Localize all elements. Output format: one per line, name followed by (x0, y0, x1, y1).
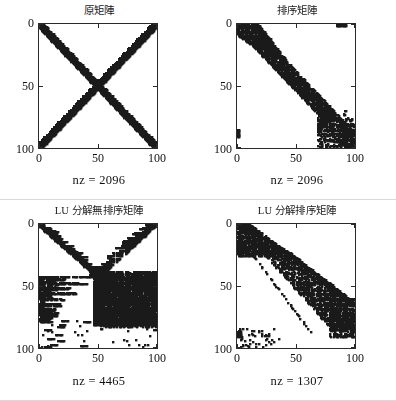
x-axis-tick-labels: 0 50 100 (198, 151, 396, 167)
x-tick-mark (296, 144, 297, 148)
x-tick-mark (296, 24, 297, 28)
y-tick-mark (39, 86, 43, 87)
y-axis-tick-labels: 0 50 100 (198, 223, 232, 349)
y-tick-mark (237, 286, 241, 287)
y-tick-mark (351, 347, 355, 348)
y-tick-mark (351, 24, 355, 25)
y-tick-label: 0 (198, 217, 232, 229)
y-tick-mark (351, 224, 355, 225)
y-tick-mark (237, 86, 241, 87)
y-tick-label: 0 (198, 17, 232, 29)
y-tick-label: 0 (0, 217, 34, 229)
x-tick-mark (296, 344, 297, 348)
x-tick-label: 50 (290, 151, 302, 165)
x-tick-mark (98, 144, 99, 148)
nz-annotation: nz = 2096 (198, 172, 396, 188)
x-tick-label: 100 (148, 151, 166, 165)
y-tick-mark (153, 347, 157, 348)
y-tick-label: 0 (0, 17, 34, 29)
y-tick-mark (39, 147, 43, 148)
x-tick-label: 0 (36, 151, 42, 165)
x-tick-label: 50 (92, 151, 104, 165)
y-tick-mark (237, 147, 241, 148)
subplot-permuted-matrix: 排序矩陣 0 50 100 0 50 100 nz = 2096 (198, 0, 396, 200)
scan-artifact-line (0, 199, 396, 200)
x-tick-label: 100 (346, 351, 364, 365)
x-tick-label: 0 (36, 351, 42, 365)
x-axis-tick-labels: 0 50 100 (0, 351, 198, 367)
nz-annotation: nz = 1307 (198, 373, 396, 389)
y-tick-mark (237, 347, 241, 348)
x-tick-label: 50 (290, 351, 302, 365)
x-tick-mark (98, 224, 99, 228)
x-axis-tick-labels: 0 50 100 (198, 351, 396, 367)
x-tick-label: 100 (346, 151, 364, 165)
figure-canvas: 原矩陣 0 50 100 0 50 100 nz = 2096 排序矩陣 0 5… (0, 0, 396, 401)
y-tick-mark (153, 224, 157, 225)
y-tick-mark (153, 24, 157, 25)
x-tick-label: 0 (234, 351, 240, 365)
x-axis-tick-labels: 0 50 100 (0, 151, 198, 167)
sparsity-canvas (237, 224, 355, 348)
x-tick-mark (98, 344, 99, 348)
x-tick-label: 100 (148, 351, 166, 365)
x-tick-mark (98, 24, 99, 28)
subplot-lu-permuted: LU 分解排序矩陣 0 50 100 0 50 100 nz = 1307 (198, 200, 396, 401)
plot-axes (236, 223, 356, 349)
y-tick-mark (237, 224, 241, 225)
y-axis-tick-labels: 0 50 100 (0, 223, 34, 349)
subplot-lu-unpermuted: LU 分解無排序矩陣 0 50 100 0 50 100 nz = 4465 (0, 200, 198, 401)
y-tick-mark (351, 286, 355, 287)
y-tick-mark (237, 24, 241, 25)
x-tick-label: 50 (92, 351, 104, 365)
nz-annotation: nz = 4465 (0, 373, 198, 389)
y-tick-mark (39, 24, 43, 25)
y-axis-tick-labels: 0 50 100 (198, 23, 232, 149)
y-tick-mark (153, 86, 157, 87)
y-tick-label: 50 (0, 80, 34, 92)
nz-annotation: nz = 2096 (0, 172, 198, 188)
y-tick-label: 50 (198, 280, 232, 292)
x-tick-mark (296, 224, 297, 228)
y-tick-label: 50 (198, 80, 232, 92)
sparsity-canvas (237, 24, 355, 148)
sparsity-canvas (39, 24, 157, 148)
y-tick-mark (351, 86, 355, 87)
y-tick-mark (153, 286, 157, 287)
x-tick-label: 0 (234, 151, 240, 165)
y-tick-mark (39, 347, 43, 348)
sparsity-canvas (39, 224, 157, 348)
y-tick-mark (351, 147, 355, 148)
y-tick-label: 50 (0, 280, 34, 292)
y-tick-mark (153, 147, 157, 148)
y-tick-mark (39, 224, 43, 225)
subplot-original-matrix: 原矩陣 0 50 100 0 50 100 nz = 2096 (0, 0, 198, 200)
plot-axes (38, 23, 158, 149)
y-axis-tick-labels: 0 50 100 (0, 23, 34, 149)
y-tick-mark (39, 286, 43, 287)
plot-axes (38, 223, 158, 349)
plot-axes (236, 23, 356, 149)
